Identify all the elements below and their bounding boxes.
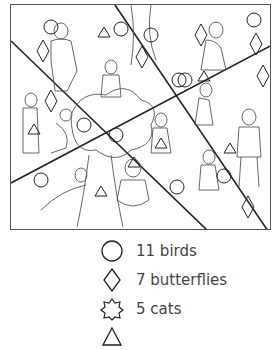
legend-label: 7 butterflies (136, 271, 227, 289)
legend-item-birds: 11 birds (100, 238, 197, 264)
circle-icon (100, 239, 124, 263)
diamond-icon (100, 268, 124, 292)
puzzle-illustration (10, 4, 271, 230)
triangle-icon (100, 325, 124, 349)
legend-item-triangle (100, 324, 136, 350)
legend-item-cats: 5 cats (100, 296, 181, 322)
star-icon (100, 297, 124, 321)
legend-item-butterflies: 7 butterflies (100, 267, 227, 293)
scene-drawing (11, 5, 271, 230)
divider-line (115, 5, 268, 230)
legend-label: 5 cats (136, 300, 181, 318)
legend-label: 11 birds (136, 242, 197, 260)
